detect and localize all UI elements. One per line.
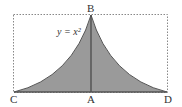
label-b: B [87,3,94,14]
label-d: D [164,94,172,105]
figure: B C A D y = x² [0,0,182,107]
equation-label: y = x² [57,27,81,37]
label-c: C [10,94,17,105]
diagram-canvas [0,0,182,107]
label-a: A [87,94,95,105]
